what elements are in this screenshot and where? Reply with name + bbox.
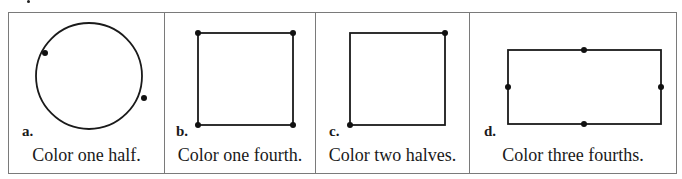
problem-label: a. (22, 123, 33, 140)
problem-d-cell: d. Color three fourths. (469, 13, 676, 173)
problem-b-cell: b. Color one fourth. (164, 13, 315, 173)
problem-instruction: Color one half. (9, 145, 164, 166)
problem-c-cell: c. Color two halves. (315, 13, 469, 173)
problem-instruction: Color two halves. (316, 145, 469, 166)
problem-instruction: Color three fourths. (470, 145, 676, 166)
problem-a-cell: a. Color one half. (9, 13, 164, 173)
fractions-worksheet-table: a. Color one half. b. Color one fourth. … (8, 12, 677, 174)
problem-label: b. (176, 123, 188, 140)
partial-text-fragment (27, 0, 30, 3)
problem-instruction: Color one fourth. (165, 145, 315, 166)
problem-label: c. (329, 123, 339, 140)
problem-label: d. (484, 123, 496, 140)
